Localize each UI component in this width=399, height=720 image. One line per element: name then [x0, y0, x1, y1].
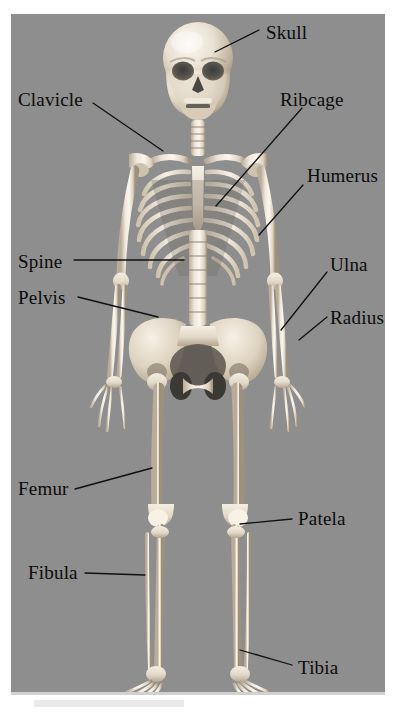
label-skull: Skull [266, 23, 307, 42]
label-ulna: Ulna [330, 255, 368, 274]
figure-page: Skull Clavicle Ribcage Humerus Spine Uln… [0, 0, 399, 720]
radius-bone-left [119, 287, 125, 376]
cervical-spine-bone [191, 120, 205, 156]
patella-bone [148, 509, 248, 527]
label-humerus: Humerus [307, 166, 378, 185]
label-tibia: Tibia [298, 658, 338, 677]
femur-bone [148, 388, 248, 526]
label-clavicle: Clavicle [18, 90, 83, 109]
skull-bone [163, 22, 233, 120]
photo-panel-bottom-edge [11, 692, 385, 695]
fibula-bone-left [147, 534, 150, 668]
label-spine: Spine [18, 252, 62, 271]
skeleton-illustration [11, 14, 385, 692]
label-radius: Radius [330, 308, 384, 327]
tibia-bone-right [235, 528, 238, 670]
fibula-bone-right [246, 534, 249, 668]
pelvis-bone [129, 318, 267, 400]
label-patela: Patela [298, 509, 346, 528]
lower-leg-bones [147, 526, 249, 670]
ulna-bone-right [278, 287, 286, 376]
label-pelvis: Pelvis [18, 288, 66, 307]
label-ribcage: Ribcage [280, 90, 344, 109]
skeleton-photo-panel [11, 14, 385, 692]
label-fibula: Fibula [28, 563, 78, 582]
scan-artifact-strip [34, 700, 184, 707]
foot-bones [127, 666, 269, 692]
lumbar-spine-bone [189, 230, 207, 326]
ulna-bone-left [110, 287, 118, 376]
radius-bone-right [271, 287, 277, 376]
label-femur: Femur [18, 479, 69, 498]
tibia-bone-left [158, 528, 161, 670]
clavicle-bone [151, 157, 245, 161]
